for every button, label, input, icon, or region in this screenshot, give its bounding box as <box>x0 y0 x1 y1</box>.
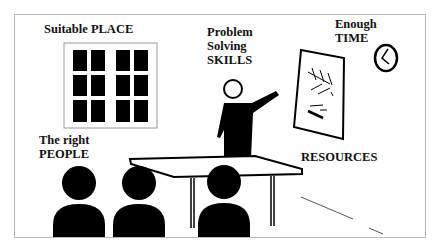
label-resources: RESOURCES <box>301 150 377 164</box>
window-icon <box>64 43 157 128</box>
label-line: Problem <box>207 25 253 39</box>
label-problem-solving-skills: Problem Solving SKILLS <box>207 25 253 67</box>
whiteboard-icon <box>294 50 344 139</box>
presenter-icon <box>217 80 279 158</box>
clock-icon <box>375 45 397 71</box>
label-line: TIME <box>335 31 377 45</box>
label-line: SKILLS <box>207 53 253 67</box>
label-the-right-people: The right PEOPLE <box>39 133 89 161</box>
floor-lines <box>301 197 383 234</box>
label-suitable-place: Suitable PLACE <box>44 22 133 36</box>
label-enough-time: Enough TIME <box>335 17 377 45</box>
label-line: The right <box>39 133 89 147</box>
label-line: Solving <box>207 39 253 53</box>
label-line: PEOPLE <box>39 147 89 161</box>
label-line: Enough <box>335 17 377 31</box>
audience-person-icon <box>113 166 165 237</box>
audience-person-icon <box>53 166 105 237</box>
